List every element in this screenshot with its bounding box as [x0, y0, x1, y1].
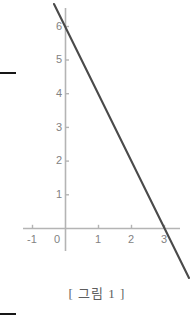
line-chart-plot [0, 0, 194, 315]
x-tick-label-0: 0 [49, 234, 65, 245]
x-tick-label-1: 1 [90, 234, 106, 245]
figure-caption: [ 그림 1 ] [0, 283, 194, 302]
x-tick-label-minus-1: -1 [24, 234, 40, 245]
y-tick-label-5: 5 [48, 54, 62, 65]
y-tick-label-1: 1 [48, 189, 62, 200]
y-tick-label-6: 6 [48, 21, 62, 32]
x-tick-label-2: 2 [123, 234, 139, 245]
y-tick-label-4: 4 [48, 88, 62, 99]
y-tick-label-3: 3 [48, 122, 62, 133]
y-tick-label-2: 2 [48, 155, 62, 166]
figure-graph: 6 5 4 3 2 1 -1 0 1 2 3 [0, 0, 194, 315]
x-tick-label-3: 3 [156, 234, 172, 245]
